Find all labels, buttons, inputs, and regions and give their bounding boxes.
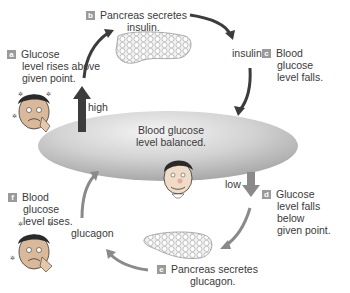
step-d: dGlucose level falls below given point. xyxy=(262,188,350,236)
badge-d: d xyxy=(262,190,271,199)
badge-b: b xyxy=(86,11,95,20)
badge-c: c xyxy=(262,49,271,58)
pancreas-insulin-icon xyxy=(116,32,191,63)
step-b-line2: insulin. xyxy=(86,21,187,33)
low-label: low xyxy=(225,178,241,190)
happy-face-icon xyxy=(164,160,193,198)
center-label: Blood glucose level balanced. xyxy=(132,124,210,148)
insulin-label: insulin xyxy=(232,47,262,59)
arrow-b-to-c xyxy=(190,15,230,34)
high-label: high xyxy=(88,101,108,113)
stressed-face-low-icon xyxy=(18,234,52,272)
stressed-face-high-icon xyxy=(18,94,50,132)
step-b-line1: Pancreas secretes xyxy=(100,9,187,21)
step-c: cBlood glucose level falls. xyxy=(262,47,323,83)
low-arrow xyxy=(242,172,260,197)
badge-a: a xyxy=(7,50,16,59)
step-a: aGlucose level rises above given point. xyxy=(7,48,107,84)
badge-e: e xyxy=(157,265,166,274)
svg-text:✲: ✲ xyxy=(18,91,23,97)
arrow-d-to-e xyxy=(225,208,250,246)
pancreas-glucagon-icon xyxy=(144,232,212,259)
svg-text:✲: ✲ xyxy=(10,255,15,261)
step-e: ePancreas secretes glucagon. xyxy=(157,263,258,287)
svg-text:✲: ✲ xyxy=(46,91,51,97)
badge-f: f xyxy=(8,193,17,202)
arrow-e-to-f xyxy=(110,254,148,270)
arrow-f-to-center xyxy=(82,176,94,218)
svg-text:✲: ✲ xyxy=(12,113,17,119)
glucagon-label: glucagon xyxy=(71,227,114,239)
step-f: fBlood glucose level rises. xyxy=(8,191,73,227)
arrow-c-to-center xyxy=(240,68,250,110)
step-b: bPancreas secretes insulin. xyxy=(86,9,187,33)
